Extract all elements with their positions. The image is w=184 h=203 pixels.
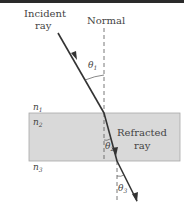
refracted-label-line2: ray — [134, 140, 151, 151]
n1-label: n1 — [33, 102, 43, 113]
normal-label: Normal — [87, 15, 125, 26]
refracted-label-line1: Refracted — [117, 127, 167, 138]
theta3-label: θ3 — [118, 183, 127, 194]
incident-label-line2: ray — [35, 20, 52, 31]
n3-label: n3 — [33, 162, 43, 173]
theta1-label: θ1 — [88, 60, 97, 71]
incident-ray — [58, 33, 104, 113]
incident-label-line1: Incident — [24, 8, 66, 19]
theta3-arc — [117, 175, 124, 176]
refraction-diagram: Incident ray Normal θ1 n1 n2 n3 Refracte… — [0, 0, 184, 203]
theta1-arc — [85, 75, 104, 80]
